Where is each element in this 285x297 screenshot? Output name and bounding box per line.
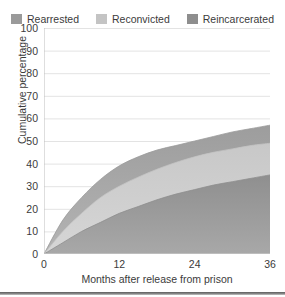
y-axis-title: Cumulative percentage bbox=[16, 25, 28, 155]
x-tick-label: 0 bbox=[29, 259, 59, 270]
legend-item-reincarcerated: Reincarcerated bbox=[187, 14, 274, 25]
plot-svg bbox=[44, 28, 270, 254]
x-tick-label: 24 bbox=[180, 259, 210, 270]
legend-item-rearrested: Rearrested bbox=[11, 14, 79, 25]
y-tick-label: 0 bbox=[4, 249, 38, 260]
y-tick-label: 10 bbox=[4, 226, 38, 237]
legend-swatch-icon bbox=[96, 14, 107, 24]
legend-swatch-icon bbox=[11, 14, 22, 24]
x-axis-title: Months after release from prison bbox=[44, 273, 270, 285]
legend-label: Reincarcerated bbox=[203, 14, 274, 25]
y-tick-label: 30 bbox=[4, 181, 38, 192]
legend-label: Reconvicted bbox=[112, 14, 170, 25]
recidivism-area-chart: Rearrested Reconvicted Reincarcerated 10… bbox=[0, 0, 285, 297]
plot-area bbox=[44, 28, 270, 254]
y-tick-label: 40 bbox=[4, 159, 38, 170]
chart-legend: Rearrested Reconvicted Reincarcerated bbox=[0, 11, 285, 27]
x-tick-label: 12 bbox=[104, 259, 134, 270]
legend-item-reconvicted: Reconvicted bbox=[96, 14, 170, 25]
x-tick-label: 36 bbox=[255, 259, 285, 270]
bottom-rule bbox=[0, 292, 285, 295]
legend-swatch-icon bbox=[187, 14, 198, 24]
data-areas bbox=[44, 125, 270, 254]
legend-label: Rearrested bbox=[27, 14, 79, 25]
y-tick-label: 20 bbox=[4, 204, 38, 215]
